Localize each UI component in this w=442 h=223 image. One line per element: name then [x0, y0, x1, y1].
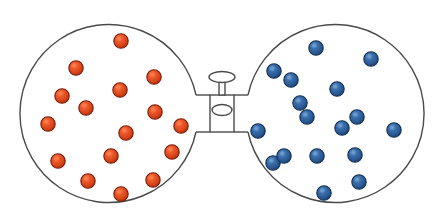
blue-gas-particle-highlight: [320, 189, 324, 192]
red-gas-particle: [81, 174, 95, 188]
blue-gas-particle-highlight: [313, 152, 317, 155]
blue-gas-particle-highlight: [367, 55, 371, 58]
red-gas-particle-highlight: [117, 190, 121, 193]
red-gas-particle: [51, 154, 65, 168]
red-gas-particle-highlight: [122, 129, 126, 132]
red-gas-particle-highlight: [150, 73, 154, 76]
blue-gas-particle-highlight: [312, 44, 316, 47]
right-flask-outline: [248, 24, 424, 202]
red-gas-particle-highlight: [116, 86, 120, 89]
blue-gas-particle-highlight: [280, 152, 284, 155]
blue-gas-particle-highlight: [287, 76, 291, 79]
red-gas-particle-highlight: [58, 92, 62, 95]
blue-gas-particle: [387, 123, 401, 137]
blue-gas-particle-highlight: [254, 127, 258, 130]
red-gas-particle: [113, 83, 127, 97]
red-gas-particle-highlight: [168, 148, 172, 151]
red-gas-particle: [79, 101, 93, 115]
red-gas-particle-highlight: [72, 64, 76, 67]
blue-gas-particle: [364, 52, 378, 66]
red-gas-particle: [147, 70, 161, 84]
blue-gas-particle: [277, 149, 291, 163]
diagram-canvas: [0, 0, 442, 223]
red-gas-particle: [114, 187, 128, 201]
red-gas-particle: [55, 89, 69, 103]
red-gas-particle-highlight: [149, 176, 153, 179]
blue-gas-particle: [335, 121, 349, 135]
blue-gas-particle: [317, 186, 331, 200]
blue-gas-particle-highlight: [355, 178, 359, 181]
red-gas-particle-highlight: [117, 37, 121, 40]
blue-gas-particle: [348, 148, 362, 162]
red-gas-particle: [165, 145, 179, 159]
red-gas-particle: [119, 126, 133, 140]
red-gas-particle-highlight: [82, 104, 86, 107]
two-flask-stopcock-diagram: [0, 0, 442, 223]
blue-gas-particle-highlight: [351, 151, 355, 154]
red-gas-particle-highlight: [44, 120, 48, 123]
blue-gas-particle: [352, 175, 366, 189]
blue-gas-particle-highlight: [338, 124, 342, 127]
red-gas-particle-highlight: [107, 152, 111, 155]
red-gas-particle: [114, 34, 128, 48]
red-gas-particle: [41, 117, 55, 131]
blue-gas-particle: [330, 82, 344, 96]
blue-gas-particle: [309, 41, 323, 55]
left-flask-group: [20, 25, 196, 203]
red-gas-particle-highlight: [84, 177, 88, 180]
blue-gas-particle-highlight: [270, 67, 274, 70]
red-gas-particle: [104, 149, 118, 163]
blue-gas-particle: [267, 64, 281, 78]
blue-gas-particle: [310, 149, 324, 163]
red-gas-particle: [69, 61, 83, 75]
blue-gas-particle-highlight: [269, 159, 273, 162]
blue-gas-particle-highlight: [390, 126, 394, 129]
blue-gas-particle: [284, 73, 298, 87]
blue-gas-particle-highlight: [353, 113, 357, 116]
right-flask-group: [248, 24, 424, 202]
red-gas-particle: [148, 105, 162, 119]
blue-gas-particle-highlight: [296, 99, 300, 102]
left-flask-outline: [20, 25, 196, 203]
valve-plug: [212, 105, 232, 116]
valve-handle-knob[interactable]: [209, 72, 235, 83]
blue-gas-particle: [251, 124, 265, 138]
blue-gas-particle-highlight: [303, 113, 307, 116]
blue-gas-particle: [293, 96, 307, 110]
red-gas-particle-highlight: [54, 157, 58, 160]
blue-gas-particle-highlight: [333, 85, 337, 88]
red-gas-particle: [146, 173, 160, 187]
red-gas-particle-highlight: [177, 122, 181, 125]
red-gas-particle: [174, 119, 188, 133]
blue-gas-particle: [300, 110, 314, 124]
blue-gas-particle: [350, 110, 364, 124]
red-gas-particle-highlight: [151, 108, 155, 111]
stopcock-valve-group[interactable]: [209, 72, 235, 133]
